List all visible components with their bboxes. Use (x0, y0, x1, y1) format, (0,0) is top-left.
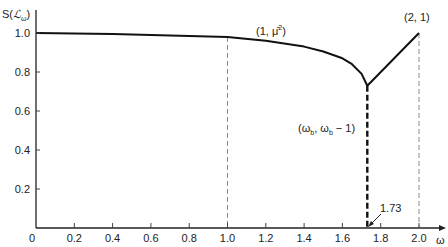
x-tick-label: 0.6 (143, 232, 158, 244)
annotation-1-mu2: (1, μ̄2) (256, 24, 286, 37)
y-tick-label: 0.6 (15, 105, 30, 117)
x-tick-label: 0.4 (105, 232, 120, 244)
x-tick-label: 0 (29, 232, 35, 244)
x-axis-arrow-icon (439, 225, 446, 231)
y-axis-label: S(ℒω) (2, 8, 30, 22)
x-axis-label: ω (436, 234, 445, 246)
x-tick-label: 1.6 (335, 232, 350, 244)
annotation-wb: (ωb, ωb − 1) (298, 122, 355, 136)
axes (36, 10, 446, 231)
chart-svg: 00.20.40.60.81.01.21.41.61.82.00.20.40.6… (0, 0, 448, 247)
x-tick-label: 0.2 (67, 232, 82, 244)
y-tick-label: 0.4 (15, 144, 30, 156)
chart-figure: 00.20.40.60.81.01.21.41.61.82.00.20.40.6… (0, 0, 448, 247)
annotation-2-1: (2, 1) (404, 11, 430, 23)
x-tick-label: 1.4 (296, 232, 311, 244)
x-tick-label: 2.0 (411, 232, 426, 244)
annotation-1-73: 1.73 (380, 202, 401, 214)
y-tick-label: 0.8 (15, 66, 30, 78)
x-tick-label: 0.8 (182, 232, 197, 244)
y-tick-label: 0.2 (15, 183, 30, 195)
x-tick-label: 1.0 (220, 232, 235, 244)
x-tick-label: 1.8 (373, 232, 388, 244)
ticks: 00.20.40.60.81.01.21.41.61.82.00.20.40.6… (15, 27, 427, 244)
arrow-icon (368, 214, 381, 227)
x-tick-label: 1.2 (258, 232, 273, 244)
y-tick-label: 1.0 (15, 27, 30, 39)
